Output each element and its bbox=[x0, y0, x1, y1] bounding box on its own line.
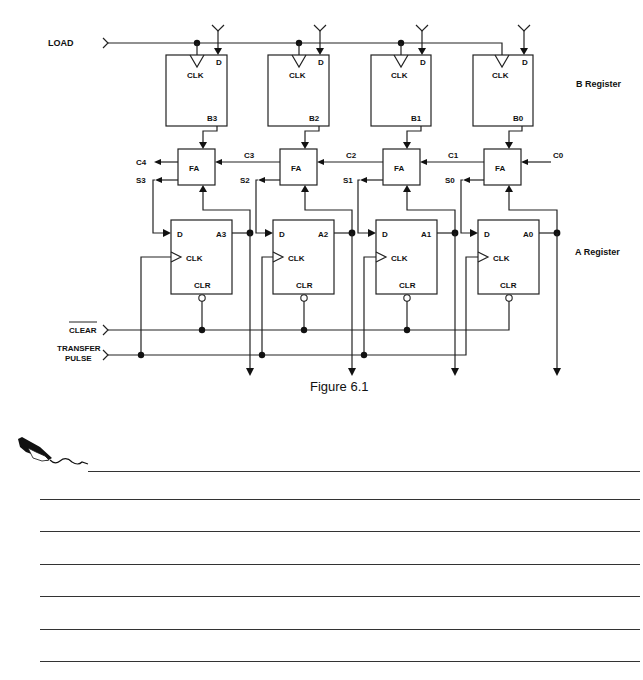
b1-label: B1 bbox=[411, 114, 422, 123]
b-register-label: B Register bbox=[576, 79, 622, 89]
c2-label: C2 bbox=[346, 151, 357, 160]
transfer-label: TRANSFER bbox=[57, 344, 101, 353]
note-line[interactable] bbox=[40, 661, 640, 662]
b0-label: B0 bbox=[513, 114, 524, 123]
clr-label: CLR bbox=[296, 281, 313, 290]
fa-label: FA bbox=[291, 164, 301, 173]
b3-label: B3 bbox=[207, 114, 218, 123]
a1-label: A1 bbox=[421, 230, 432, 239]
input-chevron-icon bbox=[103, 38, 108, 48]
adder-register-circuit-diagram: LOAD D CLK B3 D CLK B2 bbox=[0, 0, 643, 680]
fa-label: FA bbox=[189, 164, 199, 173]
s0-label: S0 bbox=[445, 176, 455, 185]
note-line[interactable] bbox=[88, 471, 640, 472]
load-label: LOAD bbox=[48, 38, 74, 48]
clk-label: CLK bbox=[391, 254, 408, 263]
clr-label: CLR bbox=[399, 281, 416, 290]
fa-label: FA bbox=[495, 164, 505, 173]
inverter-bubble-icon bbox=[404, 295, 410, 301]
a3-label: A3 bbox=[216, 230, 227, 239]
s2-label: S2 bbox=[240, 176, 250, 185]
inverter-bubble-icon bbox=[506, 295, 512, 301]
d-label: D bbox=[522, 58, 528, 67]
clk-label: CLK bbox=[391, 71, 408, 80]
d-label: D bbox=[177, 230, 183, 239]
c3-label: C3 bbox=[244, 151, 255, 160]
d-label: D bbox=[318, 58, 324, 67]
inverter-bubble-icon bbox=[199, 295, 205, 301]
s3-label: S3 bbox=[136, 176, 146, 185]
clear-label: CLEAR bbox=[69, 326, 97, 335]
pulse-label: PULSE bbox=[65, 354, 92, 363]
clk-label: CLK bbox=[186, 254, 203, 263]
a0-label: A0 bbox=[523, 230, 534, 239]
clk-label: CLK bbox=[187, 71, 204, 80]
d-label: D bbox=[279, 230, 285, 239]
c4-label: C4 bbox=[136, 158, 147, 167]
d-label: D bbox=[420, 58, 426, 67]
input-chevron-icon bbox=[103, 325, 108, 335]
clr-label: CLR bbox=[500, 281, 517, 290]
output-arrow-icon bbox=[451, 368, 459, 376]
output-arrow-icon bbox=[246, 368, 254, 376]
clk-label: CLK bbox=[288, 254, 305, 263]
transfer-pulse-input: TRANSFER PULSE bbox=[57, 344, 367, 363]
clk-label: CLK bbox=[492, 71, 509, 80]
a-register-flipflop-a3: D A3 CLK CLR bbox=[141, 220, 254, 376]
output-arrow-icon bbox=[553, 368, 561, 376]
d-label: D bbox=[484, 230, 490, 239]
s1-label: S1 bbox=[343, 176, 353, 185]
input-chevron-icon bbox=[103, 350, 108, 360]
c1-label: C1 bbox=[448, 151, 459, 160]
a-register-label: A Register bbox=[575, 247, 620, 257]
d-label: D bbox=[216, 58, 222, 67]
inverter-bubble-icon bbox=[301, 295, 307, 301]
note-line[interactable] bbox=[40, 629, 640, 630]
c0-label: C0 bbox=[553, 151, 564, 160]
a-register-flipflop-a1: D A1 CLK CLR bbox=[364, 220, 459, 376]
clear-input: CLEAR bbox=[69, 322, 410, 335]
output-arrow-icon bbox=[348, 368, 356, 376]
clk-label: CLK bbox=[289, 71, 306, 80]
note-line[interactable] bbox=[40, 596, 640, 597]
pen-writing-icon bbox=[18, 437, 88, 464]
d-label: D bbox=[382, 230, 388, 239]
note-line[interactable] bbox=[40, 499, 640, 500]
clr-label: CLR bbox=[194, 281, 211, 290]
note-line[interactable] bbox=[40, 531, 640, 532]
a-register-flipflop-a2: D A2 CLK CLR bbox=[262, 220, 356, 376]
figure-caption: Figure 6.1 bbox=[310, 379, 369, 394]
note-line[interactable] bbox=[40, 564, 640, 565]
b2-label: B2 bbox=[309, 114, 320, 123]
clk-label: CLK bbox=[493, 254, 510, 263]
fa-label: FA bbox=[394, 164, 404, 173]
a2-label: A2 bbox=[318, 230, 329, 239]
